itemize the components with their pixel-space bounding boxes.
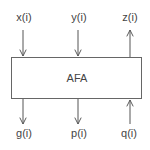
x-label: x(i) [16,11,31,23]
p-label: p(i) [71,127,87,139]
y-label: y(i) [71,11,86,23]
q-label: q(i) [121,127,137,139]
g-label: g(i) [16,127,32,139]
z-label: z(i) [122,11,137,23]
block-label: AFA [67,72,88,84]
